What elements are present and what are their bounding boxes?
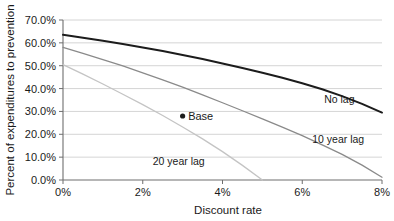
x-axis-tick-label: 4% [215, 186, 231, 198]
annotation-label-base: Base [188, 110, 213, 122]
y-axis-tick-label: 40.0% [25, 83, 56, 95]
y-axis-title: Percent of expenditures to prevention [4, 4, 16, 195]
y-axis-tick-label: 60.0% [25, 37, 56, 49]
x-axis-tick-labels: 0%2%4%6%8% [55, 186, 390, 198]
y-axis-tick-labels: 0.0%10.0%20.0%30.0%40.0%50.0%60.0%70.0% [25, 14, 56, 186]
chart-container: Base 0.0%10.0%20.0%30.0%40.0%50.0%60.0%7… [0, 0, 394, 221]
x-axis-tick-label: 8% [374, 186, 390, 198]
y-axis-tick-label: 70.0% [25, 14, 56, 26]
y-axis-tick-label: 10.0% [25, 151, 56, 163]
y-axis-tick-label: 30.0% [25, 105, 56, 117]
y-axis-tick-label: 0.0% [31, 174, 56, 186]
series-label-0: No lag [324, 93, 355, 105]
x-axis-tick-label: 0% [55, 186, 71, 198]
y-axis-tick-label: 20.0% [25, 128, 56, 140]
series-lines [63, 35, 382, 180]
x-axis-tick-label: 6% [294, 186, 310, 198]
annotation-marker-base [180, 113, 185, 118]
series-inline-labels: No lag10 year lag20 year lag [153, 93, 365, 167]
series-label-1: 10 year lag [312, 133, 364, 145]
x-axis-title: Discount rate [194, 204, 262, 216]
series-line-1 [63, 47, 382, 177]
series-label-2: 20 year lag [153, 155, 205, 167]
y-axis-tick-label: 50.0% [25, 60, 56, 72]
x-axis-tick-label: 2% [135, 186, 151, 198]
line-chart: Base 0.0%10.0%20.0%30.0%40.0%50.0%60.0%7… [0, 0, 394, 221]
